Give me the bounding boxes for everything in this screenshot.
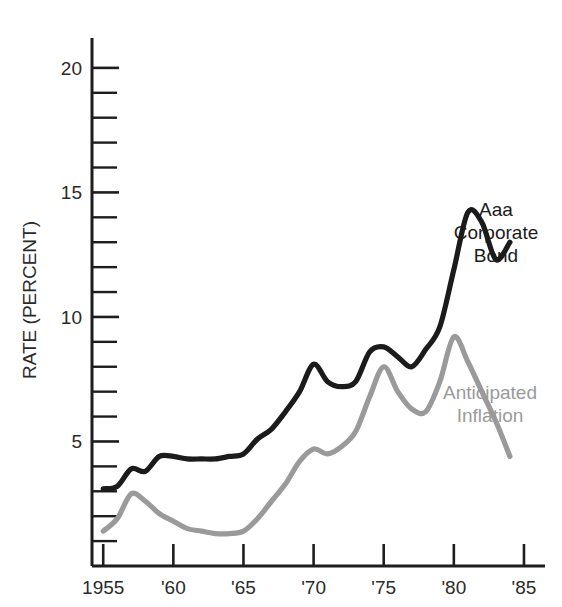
x-axis: 1955'60'65'70'75'80'85: [82, 544, 545, 598]
y-tick-label: 5: [71, 431, 82, 452]
series-inline-labels: AaaCorporateBondAnticipatedInflation: [443, 199, 538, 426]
y-tick-label: 20: [61, 58, 82, 79]
chart-container: 5101520 RATE (PERCENT) 1955'60'65'70'75'…: [0, 0, 562, 607]
series-label-aaa-corporate-bond: Bond: [474, 245, 518, 266]
x-tick-label: '65: [231, 577, 256, 598]
x-tick-label: '80: [441, 577, 466, 598]
x-tick-label: '70: [301, 577, 326, 598]
x-tick-label: 1955: [82, 577, 124, 598]
x-axis-ticks: [103, 544, 524, 566]
series-group: [103, 210, 510, 534]
x-axis-tick-labels: 1955'60'65'70'75'80'85: [82, 577, 536, 598]
y-axis-title: RATE (PERCENT): [19, 221, 40, 379]
x-tick-label: '75: [371, 577, 396, 598]
series-label-aaa-corporate-bond: Corporate: [454, 222, 539, 243]
y-tick-label: 15: [61, 182, 82, 203]
y-axis-major-ticks: [92, 68, 119, 442]
series-label-aaa-corporate-bond: Aaa: [479, 199, 513, 220]
x-tick-label: '60: [161, 577, 186, 598]
x-tick-label: '85: [512, 577, 537, 598]
series-line-anticipated-inflation: [103, 337, 510, 534]
series-label-anticipated-inflation: Inflation: [457, 405, 524, 426]
line-chart: 5101520 RATE (PERCENT) 1955'60'65'70'75'…: [0, 0, 562, 607]
series-label-anticipated-inflation: Anticipated: [443, 382, 537, 403]
y-axis-tick-labels: 5101520: [61, 58, 82, 453]
y-tick-label: 10: [61, 307, 82, 328]
